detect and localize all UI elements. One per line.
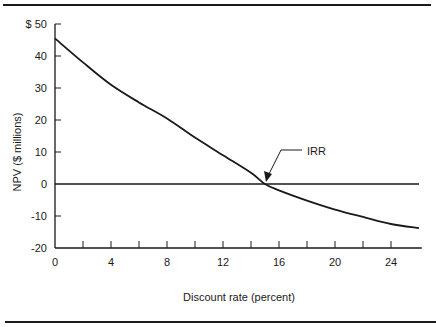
x-tick-label: 8 <box>164 256 170 268</box>
series-layer <box>55 38 419 228</box>
y-tick-label: 0 <box>41 178 47 190</box>
irr-arrowhead-icon <box>264 171 272 182</box>
chart-canvas: $ 50403020100-10-20 04812162024 IRR NPV … <box>0 0 436 327</box>
npv-curve <box>55 38 419 228</box>
x-tick-label: 20 <box>329 256 341 268</box>
y-axis: $ 50403020100-10-20 <box>26 18 61 254</box>
x-tick-label: 24 <box>385 256 397 268</box>
y-axis-label: NPV ($ millions) <box>11 113 23 192</box>
x-axis-label: Discount rate (percent) <box>183 291 295 303</box>
y-tick-label: -20 <box>31 242 47 254</box>
irr-annotation: IRR <box>264 145 326 182</box>
x-tick-label: 4 <box>108 256 114 268</box>
npv-chart: $ 50403020100-10-20 04812162024 IRR NPV … <box>0 0 436 327</box>
y-tick-label: 10 <box>35 146 47 158</box>
x-tick-label: 16 <box>273 256 285 268</box>
y-tick-label: 20 <box>35 114 47 126</box>
irr-arrow-line <box>269 150 302 174</box>
x-tick-label: 12 <box>217 256 229 268</box>
irr-label: IRR <box>307 145 326 157</box>
y-tick-label: 40 <box>35 50 47 62</box>
y-tick-label: $ 50 <box>26 18 47 30</box>
y-tick-label: -10 <box>31 210 47 222</box>
x-tick-label: 0 <box>52 256 58 268</box>
x-axis: 04812162024 <box>52 241 422 268</box>
y-tick-label: 30 <box>35 82 47 94</box>
